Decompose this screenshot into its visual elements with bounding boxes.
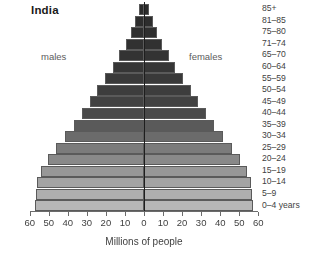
x-axis-tick-label: 20 xyxy=(101,217,112,228)
bar-female xyxy=(144,166,247,177)
bar-female xyxy=(144,96,198,107)
bar-row xyxy=(0,143,250,154)
bar-row xyxy=(0,200,250,211)
x-axis-title: Millions of people xyxy=(30,236,259,247)
bar-female xyxy=(144,39,162,50)
bar-male xyxy=(41,166,144,177)
bar-female xyxy=(144,85,191,96)
age-group-label: 75–80 xyxy=(262,26,286,36)
bar-male xyxy=(74,120,144,131)
x-axis-tick-label: 50 xyxy=(234,217,245,228)
x-axis-tick-label: 10 xyxy=(120,217,131,228)
bar-row xyxy=(0,16,250,27)
bar-female xyxy=(144,189,252,200)
x-axis-tick xyxy=(144,212,145,216)
bar-male xyxy=(113,62,144,73)
age-group-label: 50–54 xyxy=(262,84,286,94)
age-group-label: 71–74 xyxy=(262,38,286,48)
bar-row xyxy=(0,62,250,73)
bar-male xyxy=(97,85,144,96)
bar-row xyxy=(0,166,250,177)
bar-male xyxy=(48,154,144,165)
bar-male xyxy=(135,16,144,27)
bar-male xyxy=(56,143,144,154)
plot-area xyxy=(0,2,250,209)
x-axis-tick-label: 30 xyxy=(196,217,207,228)
x-axis-tick xyxy=(87,212,88,216)
bar-male xyxy=(35,200,144,211)
bar-male xyxy=(126,39,144,50)
bar-female xyxy=(144,73,183,84)
bar-female xyxy=(144,50,169,61)
bar-row xyxy=(0,4,250,15)
bar-female xyxy=(144,177,251,188)
bar-male xyxy=(37,177,144,188)
bar-female xyxy=(144,120,214,131)
x-axis-tick xyxy=(239,212,240,216)
x-axis-tick xyxy=(182,212,183,216)
bar-female xyxy=(144,131,223,142)
bar-row xyxy=(0,27,250,38)
bar-row xyxy=(0,73,250,84)
bar-male xyxy=(90,96,144,107)
age-group-label: 40–44 xyxy=(262,107,286,117)
population-pyramid-chart: India males females 60504030201001020304… xyxy=(0,0,322,256)
age-group-label: 20–24 xyxy=(262,153,286,163)
bar-row xyxy=(0,177,250,188)
bar-male xyxy=(105,73,144,84)
bar-row xyxy=(0,50,250,61)
bar-row xyxy=(0,85,250,96)
bar-male xyxy=(82,108,144,119)
bar-row xyxy=(0,96,250,107)
bar-female xyxy=(144,154,240,165)
x-axis-tick-label: 0 xyxy=(141,217,146,228)
x-axis-tick xyxy=(258,212,259,216)
bar-male xyxy=(36,189,144,200)
bar-male xyxy=(131,27,144,38)
x-axis-tick xyxy=(68,212,69,216)
age-group-label: 10–14 xyxy=(262,176,286,186)
age-group-label: 81–85 xyxy=(262,15,286,25)
bar-row xyxy=(0,154,250,165)
x-axis-tick xyxy=(201,212,202,216)
bar-female xyxy=(144,62,175,73)
bar-row xyxy=(0,108,250,119)
x-axis-tick xyxy=(125,212,126,216)
center-axis-line xyxy=(144,2,145,211)
x-axis-tick xyxy=(30,212,31,216)
bar-female xyxy=(144,143,232,154)
x-axis-tick-label: 50 xyxy=(43,217,54,228)
age-group-label: 35–39 xyxy=(262,119,286,129)
age-group-label: 30–34 xyxy=(262,130,286,140)
x-axis-tick xyxy=(220,212,221,216)
x-axis-tick-label: 60 xyxy=(24,217,35,228)
age-group-label: 25–29 xyxy=(262,142,286,152)
age-group-label: 65–70 xyxy=(262,49,286,59)
x-axis-tick-label: 20 xyxy=(177,217,188,228)
bar-female xyxy=(144,27,157,38)
x-axis-tick-label: 40 xyxy=(215,217,226,228)
x-axis-tick-label: 60 xyxy=(253,217,264,228)
bar-male xyxy=(119,50,144,61)
age-group-label: 60–64 xyxy=(262,61,286,71)
age-group-label: 45–49 xyxy=(262,96,286,106)
bar-female xyxy=(144,16,153,27)
bar-male xyxy=(65,131,144,142)
bar-row xyxy=(0,39,250,50)
bar-female xyxy=(144,200,253,211)
bar-female xyxy=(144,108,206,119)
x-axis-tick xyxy=(163,212,164,216)
x-axis-tick-label: 10 xyxy=(158,217,169,228)
x-axis-tick xyxy=(106,212,107,216)
x-axis-tick xyxy=(49,212,50,216)
age-group-label: 0–4 years xyxy=(262,200,300,210)
age-group-label: 55–59 xyxy=(262,73,286,83)
age-group-label: 5–9 xyxy=(262,188,276,198)
x-axis-tick-label: 40 xyxy=(63,217,74,228)
bar-row xyxy=(0,120,250,131)
age-group-label: 15–19 xyxy=(262,165,286,175)
bar-row xyxy=(0,189,250,200)
age-group-label: 85+ xyxy=(262,3,277,13)
bar-row xyxy=(0,131,250,142)
x-axis-tick-label: 30 xyxy=(82,217,93,228)
